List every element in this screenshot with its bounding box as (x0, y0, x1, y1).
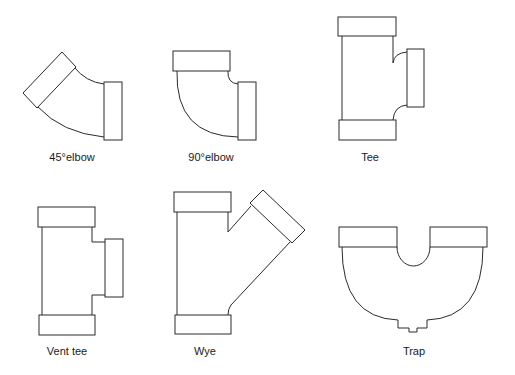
elbow-45-inner-curve (74, 67, 104, 84)
vent-tee-upper-step (92, 227, 105, 242)
elbow-45-side-hub (104, 82, 122, 140)
vent-tee-side-hub (105, 239, 123, 297)
vent-tee-top-hub (38, 207, 95, 227)
trap-right-hub (430, 227, 487, 247)
pipe-fittings-diagram (0, 0, 515, 375)
tee-drawing (338, 17, 424, 140)
wye-top-hub (174, 192, 231, 212)
trap-outer-left (342, 247, 398, 320)
trap-drawing (339, 227, 487, 332)
elbow-45-angled-hub (23, 52, 76, 108)
elbow-45-outer-curve (38, 107, 104, 137)
tee-label: Tee (361, 151, 379, 163)
vent-tee-bottom-hub (39, 315, 95, 335)
elbow-90-label: 90°elbow (188, 151, 233, 163)
trap-left-hub (339, 227, 397, 247)
trap-cleanout-plug (398, 320, 427, 332)
elbow-45-label: 45°elbow (49, 151, 94, 163)
vent-tee-drawing (38, 207, 123, 335)
tee-top-hub (338, 17, 396, 36)
tee-upper-curve (393, 52, 407, 63)
trap-outer-right (427, 247, 483, 320)
wye-drawing (174, 190, 305, 334)
wye-label: Wye (194, 345, 216, 357)
wye-bottom-hub (175, 315, 231, 334)
tee-lower-curve (393, 105, 407, 120)
trap-inner-bend (397, 247, 430, 266)
elbow-45-drawing (23, 52, 122, 140)
elbow-90-outer-curve (177, 71, 238, 137)
trap-label: Trap (403, 345, 425, 357)
vent-tee-lower-step (92, 295, 105, 315)
wye-lower-branch (228, 242, 290, 315)
elbow-90-top-hub (173, 51, 230, 71)
wye-angled-hub (250, 190, 305, 243)
tee-bottom-hub (339, 120, 396, 140)
elbow-90-side-hub (238, 82, 256, 140)
vent-tee-label: Vent tee (47, 345, 87, 357)
tee-side-hub (407, 49, 424, 107)
elbow-90-drawing (173, 51, 256, 140)
elbow-90-inner-curve (228, 71, 238, 84)
